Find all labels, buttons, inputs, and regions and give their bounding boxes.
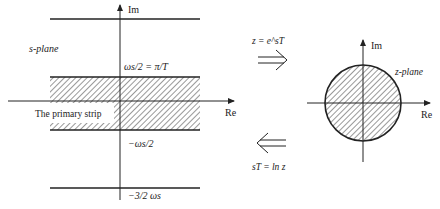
s-plane-label: s-plane xyxy=(29,43,59,54)
s-to-z-mapping-diagram: Im Re s-plane ωs/2 = π/T The primary str… xyxy=(0,0,440,209)
double-arrow-right-icon xyxy=(258,50,287,70)
mapping: z = e^sT sT = ln z xyxy=(251,36,287,172)
s-plane: Im Re s-plane ωs/2 = π/T The primary str… xyxy=(8,4,237,201)
s-re-label: Re xyxy=(225,107,237,118)
bottom-line-label: −3/2 ωs xyxy=(128,190,161,201)
forward-mapping-label: z = e^sT xyxy=(251,36,285,46)
double-arrow-left-icon xyxy=(257,133,286,153)
z-im-label: Im xyxy=(371,40,382,51)
s-im-label: Im xyxy=(128,4,139,15)
inverse-mapping-label: sT = ln z xyxy=(252,162,286,172)
primary-strip-label: The primary strip xyxy=(35,109,102,119)
z-plane: Im Re z-plane xyxy=(307,40,433,162)
lower-strip-label: −ωs/2 xyxy=(128,138,153,149)
z-plane-label: z-plane xyxy=(394,67,423,77)
upper-strip-label: ωs/2 = π/T xyxy=(124,61,169,72)
z-re-label: Re xyxy=(421,109,433,120)
